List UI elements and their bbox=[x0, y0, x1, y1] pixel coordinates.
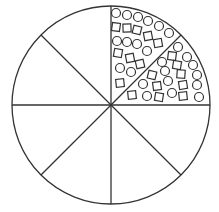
sector-dividers bbox=[12, 6, 210, 204]
sector-circle-diagram bbox=[0, 0, 219, 212]
